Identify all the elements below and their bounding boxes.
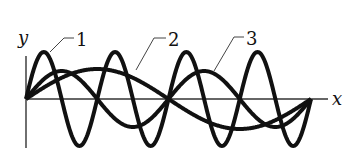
y-axis-label: y bbox=[17, 27, 29, 48]
leader-line-2 bbox=[136, 38, 166, 70]
leader-line-1 bbox=[50, 38, 74, 52]
curve-label-1: 1 bbox=[76, 29, 87, 50]
wave-diagram: y x 1 2 3 bbox=[0, 0, 364, 162]
curve-label-3: 3 bbox=[246, 28, 257, 49]
curve-label-2: 2 bbox=[168, 29, 179, 50]
leader-line-3 bbox=[214, 37, 244, 71]
x-axis-label: x bbox=[332, 88, 342, 109]
